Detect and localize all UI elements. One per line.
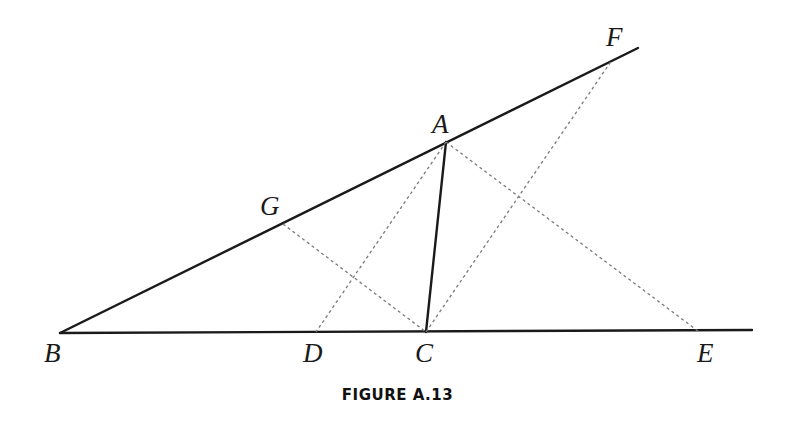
segment-CF xyxy=(426,60,612,332)
line-BF xyxy=(60,48,638,333)
label-G: G xyxy=(260,191,280,221)
figure-caption: FIGURE A.13 xyxy=(0,386,795,404)
dashed-lines xyxy=(283,60,698,332)
label-E: E xyxy=(696,338,714,368)
segment-AE xyxy=(446,142,698,331)
label-C: C xyxy=(415,338,434,368)
label-D: D xyxy=(302,338,323,368)
label-B: B xyxy=(44,338,61,368)
point-labels: A B C D E F G xyxy=(44,22,714,368)
label-A: A xyxy=(430,109,449,139)
segment-AD xyxy=(316,142,446,332)
line-BE-extended xyxy=(60,330,752,333)
geometry-figure: A B C D E F G xyxy=(0,0,795,440)
solid-lines xyxy=(60,48,752,333)
segment-AC xyxy=(426,142,446,332)
label-F: F xyxy=(605,22,623,52)
segment-GC xyxy=(283,224,426,332)
